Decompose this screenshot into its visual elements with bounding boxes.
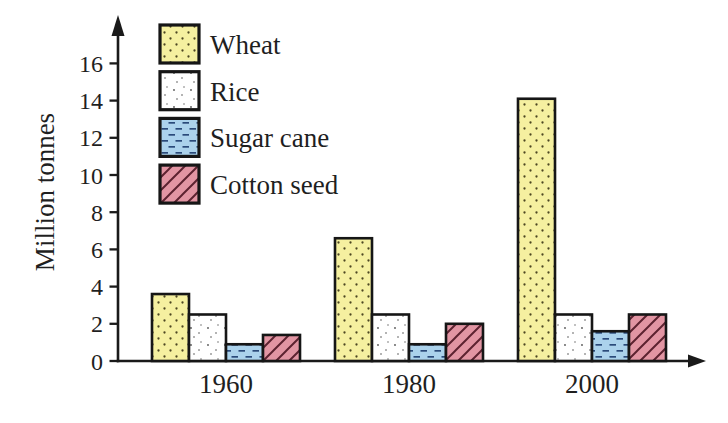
legend: WheatRiceSugar caneCotton seed bbox=[160, 25, 339, 203]
legend-item-sugar-cane: Sugar cane bbox=[160, 118, 329, 156]
x-category-label-2000: 2000 bbox=[565, 369, 619, 399]
x-axis-arrow-icon bbox=[688, 355, 706, 368]
legend-item-rice: Rice bbox=[160, 72, 259, 110]
bar-cotton-seed-2000 bbox=[629, 315, 666, 362]
legend-swatch-sugar-cane bbox=[160, 118, 199, 156]
y-tick-label-0: 0 bbox=[91, 349, 103, 375]
legend-item-cotton-seed: Cotton seed bbox=[160, 165, 339, 203]
legend-label-rice: Rice bbox=[210, 77, 259, 107]
bar-sugar-cane-1980 bbox=[409, 344, 446, 361]
y-tick-label-12: 12 bbox=[79, 125, 103, 151]
x-axis-labels: 196019802000 bbox=[199, 369, 619, 399]
y-axis-title: Million tonnes bbox=[30, 113, 60, 271]
legend-swatch-rice bbox=[160, 72, 199, 110]
bar-wheat-1960 bbox=[152, 294, 189, 361]
x-category-label-1980: 1980 bbox=[382, 369, 436, 399]
chart-canvas: 0246810121416 196019802000 WheatRiceSuga… bbox=[0, 0, 728, 423]
legend-label-cotton-seed: Cotton seed bbox=[210, 170, 339, 200]
y-axis-arrow-icon bbox=[112, 15, 125, 36]
bar-sugar-cane-1960 bbox=[226, 344, 263, 361]
y-tick-label-10: 10 bbox=[79, 163, 103, 189]
y-tick-label-8: 8 bbox=[91, 200, 103, 226]
bar-sugar-cane-2000 bbox=[592, 331, 629, 361]
bar-rice-2000 bbox=[555, 315, 592, 362]
legend-item-wheat: Wheat bbox=[160, 25, 281, 63]
bar-chart-figure: 0246810121416 196019802000 WheatRiceSuga… bbox=[0, 0, 728, 423]
bar-rice-1980 bbox=[372, 315, 409, 362]
bar-rice-1960 bbox=[189, 315, 226, 362]
legend-label-wheat: Wheat bbox=[210, 30, 281, 60]
y-tick-label-4: 4 bbox=[91, 274, 103, 300]
y-tick-label-14: 14 bbox=[79, 88, 103, 114]
bar-cotton-seed-1960 bbox=[263, 335, 300, 361]
legend-swatch-wheat bbox=[160, 25, 199, 63]
bar-wheat-2000 bbox=[518, 99, 555, 361]
x-category-label-1960: 1960 bbox=[199, 369, 253, 399]
bar-cotton-seed-1980 bbox=[446, 324, 483, 361]
legend-swatch-cotton-seed bbox=[160, 165, 199, 203]
y-tick-label-16: 16 bbox=[79, 51, 103, 77]
y-tick-label-6: 6 bbox=[91, 237, 103, 263]
y-tick-label-2: 2 bbox=[91, 311, 103, 337]
bar-wheat-1980 bbox=[335, 238, 372, 361]
legend-label-sugar-cane: Sugar cane bbox=[210, 123, 329, 153]
y-axis-ticks: 0246810121416 bbox=[79, 51, 118, 375]
